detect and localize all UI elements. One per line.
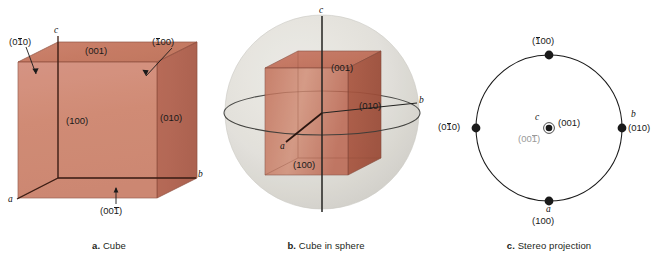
sphere-axis-label-b: b [419,96,424,106]
cube-axis-label-c: c [54,26,58,36]
sphere-label-100-front: (100) [293,160,315,170]
cube-in-sphere-drawing [218,0,434,230]
cube-label-010-right: (010) [160,113,182,123]
stereo-axis-label-c: c [535,113,539,123]
caption-a-text: Cube [103,240,126,251]
cube-label-bar100-back: (100) [152,37,174,47]
sphere-label-010-right: (010) [359,101,381,111]
caption-panel-b: b. Cube in sphere [218,240,434,251]
pole-marker-bar100-top [545,51,554,60]
caption-panel-a: a. Cube [0,240,218,251]
stereo-label-bar100-top: (100) [532,36,554,46]
sphere-axis-label-c: c [319,6,323,16]
sphere-axis-label-a: a [280,142,285,152]
stereo-label-001bar-center: (001) [518,134,540,144]
cube-drawing [0,0,218,230]
sphere-label-001-top: (001) [331,63,353,73]
cube-axis-label-b: b [198,170,203,180]
cube-label-100-front: (100) [66,116,88,126]
stereo-axis-label-b: b [631,110,636,120]
panel-stereo-projection: (100) b (010) a (100) (010) c (001) (001… [434,0,664,259]
cube-axis-label-a: a [8,195,13,205]
pole-marker-001-center [546,125,553,132]
panel-cube-stage: (001) (100) (010) (010) (100) (001) a b … [0,0,218,230]
cube-label-0bar10-left: (010) [9,37,31,47]
cube-label-001bar-bottom: (001) [100,206,122,216]
caption-a-letter: a. [92,240,100,251]
panel-sphere-stage: (001) (010) (100) c b a [218,0,434,230]
pole-marker-0bar10-left [472,124,481,133]
stereo-label-001-center: (001) [558,118,580,128]
stereo-label-010-right: (010) [628,123,650,133]
crystallography-figure: (001) (100) (010) (010) (100) (001) a b … [0,0,664,259]
caption-b-letter: b. [287,240,296,251]
caption-c-text: Stereo projection [518,240,592,251]
panel-stereo-stage: (100) b (010) a (100) (010) c (001) (001… [434,0,664,230]
stereo-label-0bar10-left: (010) [438,122,460,132]
pole-marker-010-right [618,124,627,133]
caption-c-letter: c. [507,240,515,251]
panel-cube-in-sphere: (001) (010) (100) c b a b. Cube in spher… [218,0,434,259]
caption-panel-c: c. Stereo projection [434,240,664,251]
caption-b-text: Cube in sphere [299,240,365,251]
stereo-axis-label-a: a [546,205,551,215]
panel-cube: (001) (100) (010) (010) (100) (001) a b … [0,0,218,259]
stereo-label-100-bottom: (100) [532,216,554,226]
cube-label-001-top: (001) [85,46,107,56]
